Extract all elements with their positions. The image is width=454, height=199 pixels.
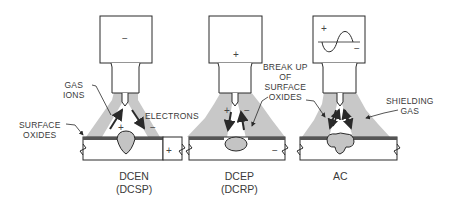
- dcep-caption: DCEP (DCRP): [221, 170, 258, 196]
- torch-polarity-sign: +: [233, 50, 239, 60]
- oxide-layer-left: [189, 137, 224, 140]
- wave-minus-sign: −: [354, 44, 360, 54]
- break-up-oxides-label: BREAK UP OF SURFACE OXIDES: [263, 62, 308, 102]
- electrons-label: ELECTRONS: [145, 111, 199, 121]
- gas-ions-label: GAS IONS: [63, 80, 85, 100]
- plate-polarity-sign: +: [166, 146, 172, 156]
- torch-polarity-sign: −: [122, 34, 128, 44]
- torch-nozzle: [111, 63, 140, 93]
- torch-nozzle: [322, 63, 357, 93]
- torch-nozzle: [218, 63, 252, 93]
- weld-pool: [225, 137, 247, 151]
- tungsten-electrode: [122, 93, 128, 106]
- plate-polarity-sign: −: [272, 146, 278, 156]
- arc-minus-sign: −: [244, 106, 250, 116]
- surface-oxides-label: SURFACE OXIDES: [19, 120, 61, 140]
- arc-plus-sign: +: [118, 123, 124, 133]
- oxide-layer-right: [248, 137, 285, 140]
- wave-plus-sign: +: [321, 24, 327, 34]
- arc-minus-sign: −: [150, 123, 156, 133]
- surface-oxides-leader: [66, 124, 83, 135]
- arc-plus-sign: +: [224, 106, 230, 116]
- tig-polarity-diagram: − GAS IONS SURFACE OXIDES ELECTRONS + − …: [0, 0, 454, 199]
- shielding-gas-label: SHIELDING GAS: [386, 96, 434, 116]
- dcen-caption: DCEN (DCSP): [116, 170, 152, 196]
- panel-ac: [297, 16, 400, 160]
- ac-caption: AC: [333, 170, 348, 183]
